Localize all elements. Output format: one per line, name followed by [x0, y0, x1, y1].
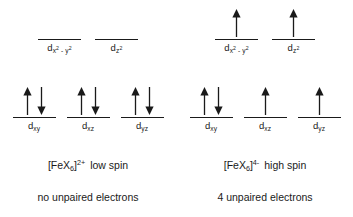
electron-arrows: [55, 8, 64, 37]
orbital-level-dx2-y2: dx2 - y2: [214, 8, 259, 53]
orbital-label: dyz: [313, 121, 325, 131]
unpaired-electrons-note: 4 unpaired electrons: [177, 192, 353, 203]
orbital-level-dxy: dxy: [189, 86, 234, 131]
orbital-label: dx2 - y2: [224, 43, 248, 53]
spin-state-label: low spin: [90, 159, 128, 171]
energy-level-line: [38, 39, 81, 40]
spin-up-arrow: [131, 87, 140, 115]
electron-arrows: [23, 86, 46, 115]
orbital-level-dx2-y2: dx2 - y2: [37, 8, 82, 53]
orbital-level-dxz: dxz: [243, 86, 288, 131]
spin-up-arrow: [289, 9, 298, 37]
panel-high-spin: dx2 - y2dz2dxydxzdyz[FeX6]4-high spin4 u…: [177, 0, 353, 217]
orbital-label: dxz: [259, 121, 271, 131]
spin-up-arrow: [315, 87, 324, 115]
orbital-level-dz2: dz2: [271, 8, 316, 53]
orbital-label: dx2 - y2: [47, 43, 71, 53]
eg-level-group: dx2 - y2dz2: [0, 8, 176, 53]
energy-level-line: [190, 117, 233, 118]
orbital-label: dyz: [136, 121, 148, 131]
energy-level-line: [67, 117, 110, 118]
electron-arrows: [200, 86, 223, 115]
complex-formula-caption: [FeX6]4-high spin: [177, 160, 353, 171]
electron-arrows: [131, 86, 154, 115]
spin-down-arrow: [91, 87, 100, 115]
electron-arrows: [261, 86, 270, 115]
energy-level-line: [244, 117, 287, 118]
energy-level-line: [298, 117, 341, 118]
orbital-level-dxy: dxy: [12, 86, 57, 131]
complex-formula-caption: [FeX6]2+low spin: [0, 160, 176, 171]
spin-up-arrow: [261, 87, 270, 115]
electron-arrows: [77, 86, 100, 115]
energy-level-line: [13, 117, 56, 118]
orbital-level-dyz: dyz: [297, 86, 342, 131]
crystal-field-diagram: dx2 - y2dz2dxydxzdyz[FeX6]2+low spinno u…: [0, 0, 353, 217]
energy-level-line: [272, 39, 315, 40]
t2g-level-group: dxydxzdyz: [0, 86, 176, 131]
eg-level-group: dx2 - y2dz2: [177, 8, 353, 53]
orbital-level-dyz: dyz: [120, 86, 165, 131]
energy-level-line: [121, 117, 164, 118]
spin-down-arrow: [145, 87, 154, 115]
energy-level-line: [95, 39, 138, 40]
panel-low-spin: dx2 - y2dz2dxydxzdyz[FeX6]2+low spinno u…: [0, 0, 176, 217]
electron-arrows: [112, 8, 121, 37]
electron-arrows: [315, 86, 324, 115]
electron-arrows: [232, 8, 241, 37]
t2g-level-group: dxydxzdyz: [177, 86, 353, 131]
spin-down-arrow: [37, 87, 46, 115]
orbital-label: dxz: [82, 121, 94, 131]
spin-state-label: high spin: [264, 159, 306, 171]
electron-arrows: [289, 8, 298, 37]
spin-up-arrow: [23, 87, 32, 115]
orbital-label: dz2: [288, 43, 300, 53]
energy-level-line: [215, 39, 258, 40]
spin-up-arrow: [232, 9, 241, 37]
orbital-label: dxy: [28, 121, 40, 131]
orbital-label: dz2: [111, 43, 123, 53]
spin-up-arrow: [200, 87, 209, 115]
spin-down-arrow: [214, 87, 223, 115]
orbital-label: dxy: [205, 121, 217, 131]
orbital-level-dxz: dxz: [66, 86, 111, 131]
spin-up-arrow: [77, 87, 86, 115]
unpaired-electrons-note: no unpaired electrons: [0, 192, 176, 203]
orbital-level-dz2: dz2: [94, 8, 139, 53]
